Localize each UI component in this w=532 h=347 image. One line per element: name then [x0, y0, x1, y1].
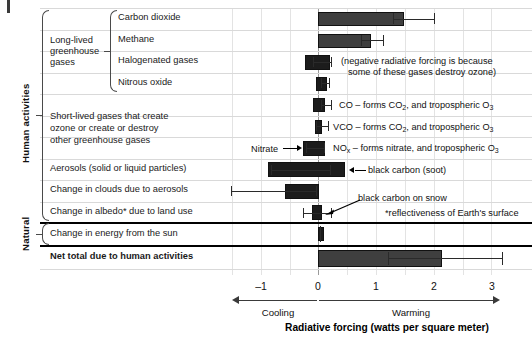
- group-label-short-lived-line1: Short-lived gases that create: [50, 111, 168, 123]
- soot-arrow-head-icon: [349, 167, 354, 173]
- section-rule-natural-bottom: [40, 245, 532, 247]
- row-label-net-total: Net total due to human activities: [50, 251, 193, 263]
- brace-natural-nub: [36, 234, 42, 235]
- xtick-label-3: 3: [478, 280, 506, 292]
- errorbar-cap: [328, 121, 329, 131]
- warming-arrow-line: [319, 300, 494, 301]
- group-label-long-lived-line3: gases: [50, 57, 75, 69]
- snow-arrow-icon: [322, 198, 362, 216]
- errorbar-cap: [388, 252, 389, 265]
- errorbar-solar: [320, 226, 321, 242]
- nitrate-arrow-head-icon: [297, 145, 302, 151]
- errorbar-cap: [303, 208, 304, 218]
- annotation-halogen-note-line2: some of these gases destroy ozone): [348, 66, 496, 78]
- brace-long-lived: [110, 10, 117, 92]
- row-separator: [40, 159, 532, 160]
- annotation-vco-note: VCO – forms CO2, and tropospheric O3: [333, 121, 494, 134]
- brace-human-activities-nub: [36, 115, 42, 116]
- errorbar-cap: [271, 165, 272, 175]
- errorbar-cap: [393, 13, 394, 24]
- errorbar-cap: [313, 57, 314, 67]
- errorbar-methane: [361, 40, 383, 41]
- cooling-label: Cooling: [248, 307, 308, 318]
- annotation-nitrate-label: Nitrate: [251, 143, 278, 155]
- errorbar-cap: [316, 186, 317, 196]
- errorbar-cap: [324, 143, 325, 153]
- bar-carbon-dioxide: [318, 12, 404, 26]
- radiative-forcing-chart: Carbon dioxide Methane Halogenated gases…: [0, 0, 532, 347]
- xtick-label-minus1: –1: [247, 280, 275, 292]
- annotation-nox-note: NOx – forms nitrate, and tropospheric O3: [333, 142, 499, 155]
- row-separator: [40, 94, 532, 95]
- axis-group-human-activities: Human activities: [20, 48, 31, 198]
- errorbar-cap: [331, 100, 332, 110]
- errorbar-cap: [502, 252, 503, 265]
- errorbar-clouds: [231, 191, 316, 192]
- errorbar-nox: [306, 148, 324, 149]
- nitrate-arrow-line: [283, 148, 298, 149]
- row-label-methane: Methane: [118, 34, 154, 46]
- row-label-halogenated-gases: Halogenated gases: [118, 55, 198, 67]
- errorbar-vco: [316, 126, 328, 127]
- errorbar-halogenated-gases: [313, 62, 331, 63]
- errorbar-cap: [321, 100, 322, 110]
- row-label-aerosols: Aerosols (solid or liquid particles): [50, 163, 186, 175]
- errorbar-cap: [331, 57, 332, 67]
- errorbar-cap: [329, 78, 330, 88]
- axis-title: Radiative forcing (watts per square mete…: [262, 322, 512, 333]
- crop-mark-icon: [7, 0, 10, 13]
- errorbar-aerosols: [271, 170, 330, 171]
- row-separator: [40, 180, 532, 181]
- warming-arrow-head-icon: [493, 296, 500, 304]
- annotation-black-carbon-snow: black carbon on snow: [358, 192, 447, 204]
- row-label-carbon-dioxide: Carbon dioxide: [118, 12, 181, 24]
- errorbar-cap: [306, 143, 307, 153]
- row-separator: [40, 269, 532, 270]
- errorbar-cap: [361, 35, 362, 46]
- errorbar-net-total: [388, 258, 502, 259]
- errorbar-cap: [316, 121, 317, 131]
- row-label-albedo: Change in albedo* due to land use: [50, 206, 193, 218]
- cooling-arrow-line: [238, 300, 317, 301]
- errorbar-cap: [434, 13, 435, 24]
- row-separator: [40, 202, 532, 203]
- brace-long-lived-nub: [104, 51, 110, 52]
- errorbar-cap: [330, 165, 331, 175]
- group-label-long-lived-line1: Long-lived: [50, 35, 93, 47]
- xtick-label-0: 0: [304, 280, 332, 292]
- annotation-co-note: CO – forms CO2, and tropospheric O3: [339, 99, 493, 112]
- soot-arrow-line: [355, 170, 366, 171]
- axis-group-natural: Natural: [20, 206, 31, 262]
- row-label-clouds: Change in clouds due to aerosols: [50, 184, 188, 196]
- gridline-v: [290, 8, 291, 275]
- errorbar-nitrous-oxide: [321, 83, 329, 84]
- xtick-label-1: 1: [362, 280, 390, 292]
- brace-natural: [42, 223, 49, 245]
- warming-label: Warming: [376, 307, 446, 318]
- errorbar-co: [321, 105, 331, 106]
- brace-human-activities: [42, 10, 49, 221]
- xtick-label-2: 2: [420, 280, 448, 292]
- errorbar-cap: [383, 35, 384, 46]
- section-rule-natural-top: [40, 222, 532, 224]
- group-label-long-lived-line2: greenhouse: [50, 46, 99, 58]
- errorbar-cap: [231, 186, 232, 196]
- annotation-albedo-footnote: *reflectiveness of Earth's surface: [385, 207, 519, 219]
- annotation-black-carbon-soot: black carbon (soot): [368, 164, 446, 176]
- row-separator: [40, 8, 532, 9]
- group-label-short-lived-line2: ozone or create or destroy: [50, 123, 159, 135]
- errorbar-carbon-dioxide: [393, 19, 434, 20]
- errorbar-cap: [321, 78, 322, 88]
- gridline-v: [232, 8, 233, 275]
- gridline-v: [261, 8, 262, 275]
- group-label-short-lived-line3: other greenhouse gases: [50, 135, 150, 147]
- row-label-nitrous-oxide: Nitrous oxide: [118, 77, 172, 89]
- row-label-solar: Change in energy from the sun: [50, 228, 178, 240]
